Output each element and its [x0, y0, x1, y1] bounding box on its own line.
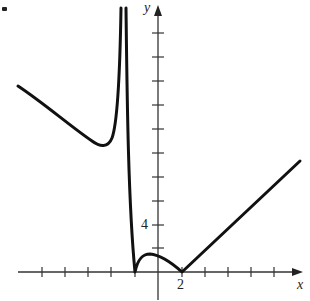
x-axis-arrow-icon [292, 268, 303, 276]
curve-right-branch [126, 8, 300, 272]
x-tick-label-2: 2 [177, 277, 184, 293]
graph [0, 0, 310, 301]
y-tick-label-4: 4 [141, 217, 148, 233]
x-axis-label: x [297, 277, 303, 293]
curve-left-branch [18, 8, 121, 146]
y-axis-arrow-icon [154, 5, 162, 16]
y-axis-label: y [144, 0, 150, 16]
